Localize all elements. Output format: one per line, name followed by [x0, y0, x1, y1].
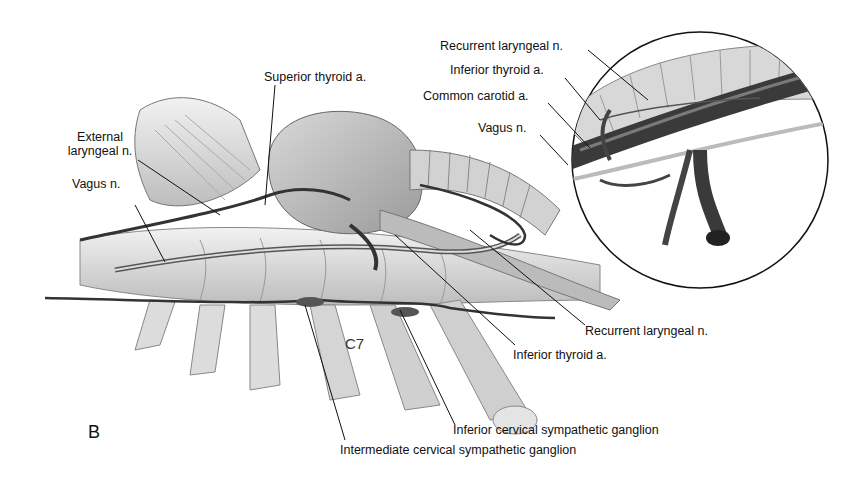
label-inset-common-carotid: Common carotid a. [423, 89, 529, 103]
label-external-laryngeal-line1: External [60, 130, 140, 144]
label-external-laryngeal: External laryngeal n. [60, 130, 140, 158]
anatomical-illustration [0, 0, 843, 489]
larynx [135, 98, 260, 206]
panel-label: B [88, 422, 100, 443]
inferior-ganglion [391, 307, 419, 317]
label-superior-thyroid: Superior thyroid a. [264, 70, 366, 84]
inset-magnified-view [560, 32, 843, 288]
label-vagus-left: Vagus n. [72, 177, 120, 191]
cervical-spine [80, 227, 600, 434]
label-inferior-thyroid: Inferior thyroid a. [513, 348, 607, 362]
label-inset-vagus: Vagus n. [478, 121, 526, 135]
trachea [410, 150, 560, 235]
label-external-laryngeal-line2: laryngeal n. [60, 144, 140, 158]
label-inset-recurrent-laryngeal: Recurrent laryngeal n. [440, 39, 563, 53]
vertebra-c7-label: C7 [345, 335, 364, 352]
label-recurrent-laryngeal: Recurrent laryngeal n. [585, 324, 708, 338]
label-inset-inferior-thyroid: Inferior thyroid a. [450, 63, 544, 77]
label-intermediate-ganglion: Intermediate cervical sympathetic gangli… [340, 443, 576, 457]
label-inferior-ganglion: Inferior cervical sympathetic ganglion [453, 423, 659, 437]
intermediate-ganglion [296, 297, 324, 307]
